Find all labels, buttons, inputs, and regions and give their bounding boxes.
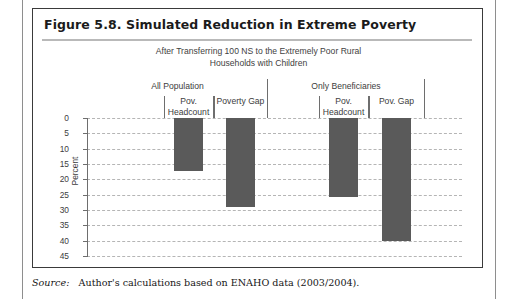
series-label: Pov. Headcount	[319, 96, 368, 117]
group-label-row: All PopulationOnly Beneficiaries	[87, 81, 462, 95]
y-axis-tick	[83, 179, 88, 180]
y-axis-tick-label: 15	[43, 159, 69, 169]
label-cell-divider	[164, 96, 165, 118]
y-axis-tick	[83, 195, 88, 196]
label-cell-divider	[214, 96, 215, 118]
y-axis-tick-label: 20	[43, 174, 69, 184]
y-axis-tick-label: 25	[43, 190, 69, 200]
series-label: Poverty Gap	[214, 96, 267, 107]
plot-area: Percent	[87, 118, 462, 256]
y-axis-tick	[83, 210, 88, 211]
y-axis-tick-label: 0	[43, 113, 69, 123]
y-axis-labels: 051015202530354045	[43, 118, 69, 256]
group-label: All Population	[88, 81, 267, 91]
series-label: Pov. Gap	[369, 96, 424, 107]
page-gutter-line-left	[22, 0, 23, 299]
bar	[382, 118, 411, 241]
label-cell-divider	[369, 96, 370, 118]
gridline	[87, 256, 462, 257]
bar	[226, 118, 255, 207]
label-cell-divider	[267, 96, 268, 118]
bar	[174, 118, 203, 171]
y-axis-line	[87, 118, 88, 256]
series-label: Pov. Headcount	[164, 96, 213, 117]
source-note-text: Author's calculations based on ENAHO dat…	[79, 277, 360, 288]
source-note: Source: Author's calculations based on E…	[32, 277, 359, 288]
bar	[329, 118, 358, 197]
gridline	[87, 241, 462, 242]
bar-chart: All PopulationOnly Beneficiaries Pov. He…	[33, 9, 484, 269]
y-axis-tick-label: 10	[43, 144, 69, 154]
y-axis-title: Percent	[70, 157, 80, 186]
y-axis-tick	[83, 241, 88, 242]
y-axis-tick	[83, 256, 88, 257]
y-axis-tick-label: 30	[43, 205, 69, 215]
y-axis-tick	[83, 118, 88, 119]
series-label-row: Pov. HeadcountPoverty GapPov. HeadcountP…	[87, 96, 462, 118]
y-axis-tick	[83, 225, 88, 226]
source-note-label: Source:	[32, 277, 69, 288]
figure-container: Figure 5.8. Simulated Reduction in Extre…	[32, 8, 483, 268]
y-axis-tick	[83, 164, 88, 165]
label-cell-divider	[424, 96, 425, 118]
y-axis-tick-label: 35	[43, 220, 69, 230]
label-cell-divider	[319, 96, 320, 118]
y-axis-tick	[83, 149, 88, 150]
group-label: Only Beneficiaries	[268, 81, 424, 91]
y-axis-tick	[83, 133, 88, 134]
y-axis-tick-label: 45	[43, 251, 69, 261]
y-axis-tick-label: 40	[43, 236, 69, 246]
page-gutter-line-right	[495, 0, 496, 299]
y-axis-tick-label: 5	[43, 128, 69, 138]
